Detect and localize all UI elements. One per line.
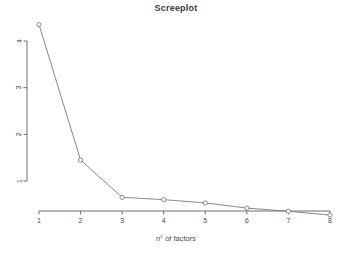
x-axis-tick-label: 4 bbox=[162, 217, 166, 224]
screeplot-figure: Screeplot 123412345678 n° of factors bbox=[0, 0, 352, 256]
data-point-marker bbox=[286, 209, 290, 213]
y-axis-tick-label: 1 bbox=[16, 179, 23, 183]
data-point-marker bbox=[328, 213, 332, 217]
x-axis-tick-label: 6 bbox=[245, 217, 249, 224]
axes-layer: 123412345678 bbox=[16, 39, 333, 224]
data-point-marker bbox=[120, 195, 124, 199]
x-axis-tick-label: 8 bbox=[328, 217, 332, 224]
data-point-marker bbox=[203, 201, 207, 205]
data-point-marker bbox=[37, 23, 41, 27]
x-axis-tick-label: 2 bbox=[79, 217, 83, 224]
data-point-marker bbox=[162, 198, 166, 202]
x-axis-tick-label: 1 bbox=[37, 217, 41, 224]
plot-canvas: 123412345678 bbox=[0, 0, 352, 256]
data-point-marker bbox=[78, 158, 82, 162]
x-axis-tick-label: 7 bbox=[286, 217, 290, 224]
y-axis-tick-label: 2 bbox=[16, 132, 23, 136]
data-series-layer bbox=[37, 23, 332, 218]
data-point-marker bbox=[245, 206, 249, 210]
x-axis-tick-label: 3 bbox=[120, 217, 124, 224]
y-axis-tick-label: 3 bbox=[16, 86, 23, 90]
x-axis-label: n° of factors bbox=[0, 234, 352, 243]
x-axis-tick-label: 5 bbox=[203, 217, 207, 224]
y-axis-tick-label: 4 bbox=[16, 39, 23, 43]
data-line bbox=[39, 25, 330, 215]
